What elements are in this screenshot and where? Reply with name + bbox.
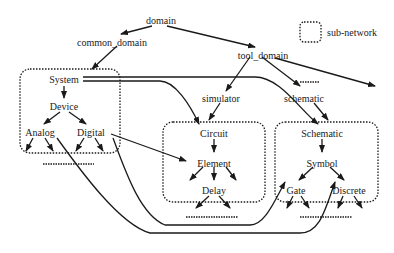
legend-swatch xyxy=(300,22,321,42)
node-digital: Digital xyxy=(77,127,105,138)
node-schematic: Schematic xyxy=(301,128,343,139)
node-device: Device xyxy=(50,101,78,112)
node-analog: Analog xyxy=(25,127,54,138)
node-gate: Gate xyxy=(287,185,306,196)
legend-label: sub-network xyxy=(327,27,377,38)
node-symbol: Symbol xyxy=(306,158,337,169)
node-schematic-tool: schematic xyxy=(284,93,324,104)
node-element: Element xyxy=(197,158,230,169)
node-system: System xyxy=(49,74,78,85)
node-delay: Delay xyxy=(202,185,226,196)
node-discrete: Discrete xyxy=(332,185,365,196)
node-common-domain: common_domain xyxy=(77,37,147,48)
node-circuit: Circuit xyxy=(200,128,228,139)
node-simulator: simulator xyxy=(202,93,240,104)
node-tool-domain: tool_domain xyxy=(238,50,289,61)
node-domain: domain xyxy=(146,15,176,26)
